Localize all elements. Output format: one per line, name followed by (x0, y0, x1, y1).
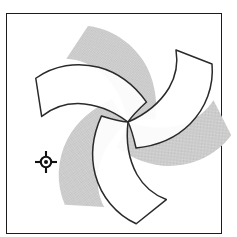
base-point-crosshair[interactable] (35, 151, 57, 173)
illustration-canvas: Rotate about base point original positio… (0, 0, 237, 237)
diagram-svg (0, 0, 237, 237)
crosshair-center-dot (44, 160, 48, 164)
